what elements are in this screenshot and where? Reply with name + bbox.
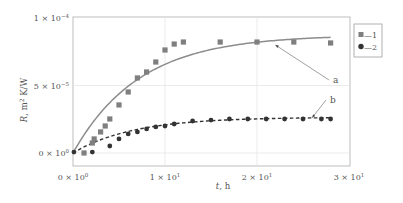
fit-curve-series-2: [73, 118, 331, 153]
y-tick-mantissa: 0 × 10: [38, 149, 65, 158]
x-axis-title: t, h: [216, 181, 231, 191]
x-tick-mantissa: 2 × 10: [242, 173, 269, 182]
data-point-series-1: [162, 47, 167, 52]
data-point-series-1: [181, 39, 186, 44]
data-point-series-1: [107, 116, 112, 121]
data-point-series-1: [328, 40, 333, 45]
data-point-series-2: [282, 117, 287, 122]
data-point-series-2: [190, 119, 195, 124]
data-point-series-2: [107, 144, 112, 149]
x-tick-mantissa: 3 × 10: [334, 173, 361, 182]
data-point-series-2: [209, 118, 214, 123]
data-point-series-2: [153, 125, 158, 130]
legend-marker-1: [359, 32, 364, 37]
data-point-series-1: [172, 41, 177, 46]
gridlines: [73, 17, 350, 166]
legend: —1 —2: [354, 24, 382, 57]
data-point-series-2: [328, 117, 333, 122]
y-tick-labels: 0 × 1005 × 10−51 × 10−4: [34, 13, 70, 158]
x-tick-mantissa: 1 × 10: [150, 173, 177, 182]
data-point-series-2: [126, 132, 131, 137]
annotation-label-a: a: [333, 75, 339, 85]
annotation-leader-b: [312, 100, 326, 118]
x-axis-unit: , h: [219, 181, 230, 191]
y-axis-title: R, m2 K/W: [18, 78, 30, 124]
data-point-series-2: [172, 122, 177, 127]
data-point-series-2: [90, 150, 95, 155]
annotation-label-b: b: [330, 95, 336, 105]
y-tick-mantissa: 1 × 10: [34, 14, 61, 23]
annotations: ab: [275, 45, 339, 118]
x-tick-exponent: 1: [361, 172, 365, 178]
annotation-arrowhead-a: [275, 45, 278, 48]
data-point-series-2: [301, 117, 306, 122]
data-point-series-1: [103, 123, 108, 128]
data-point-series-2: [117, 137, 122, 142]
data-point-series-2: [227, 117, 232, 122]
data-point-series-1: [126, 89, 131, 94]
data-point-series-1: [135, 75, 140, 80]
x-tick-label: 3 × 101: [334, 172, 365, 182]
legend-box: [354, 24, 382, 57]
data-point-series-1: [92, 136, 97, 141]
x-tick-labels: 0 × 1001 × 1012 × 1013 × 101: [58, 172, 365, 182]
plot-frame: [73, 17, 350, 166]
x-tick-exponent: 1: [177, 172, 181, 178]
data-point-series-1: [98, 129, 103, 134]
data-point-series-2: [163, 124, 168, 129]
data-point-series-1: [254, 39, 259, 44]
data-point-series-2: [245, 117, 250, 122]
y-tick-exponent: −4: [61, 13, 70, 19]
data-point-series-2: [144, 127, 149, 132]
y-tick-label: 1 × 10−4: [34, 13, 70, 23]
legend-label-2: —2: [364, 43, 377, 52]
data-point-series-1: [81, 150, 86, 155]
x-tick-label: 1 × 101: [150, 172, 181, 182]
legend-label-1: —1: [364, 31, 377, 40]
data-point-series-2: [319, 117, 324, 122]
data-point-series-1: [116, 102, 121, 107]
annotation-leader-a: [275, 45, 329, 80]
x-tick-label: 2 × 101: [242, 172, 273, 182]
y-tick-exponent: −5: [61, 81, 70, 87]
x-tick-mantissa: 0 × 10: [58, 173, 85, 182]
y-tick-mantissa: 5 × 10: [34, 82, 61, 91]
data-point-series-1: [218, 39, 223, 44]
y-axis-unit-b: K/W: [19, 78, 29, 99]
x-tick-exponent: 0: [85, 172, 89, 178]
legend-marker-2: [358, 44, 363, 49]
chart: 0 × 1001 × 1012 × 1013 × 101 0 × 1005 × …: [0, 0, 403, 203]
data-point-series-1: [144, 69, 149, 74]
y-axis-unit-a: , m: [19, 102, 29, 115]
x-tick-label: 0 × 100: [58, 172, 89, 182]
y-tick-label: 5 × 10−5: [34, 81, 70, 91]
data-point-series-2: [135, 130, 140, 135]
data-point-series-1: [291, 39, 296, 44]
data-point-series-2: [72, 150, 77, 155]
x-tick-exponent: 1: [269, 172, 273, 178]
y-tick-label: 0 × 100: [38, 148, 69, 158]
data-point-series-1: [153, 59, 158, 64]
fit-curves: [73, 37, 331, 153]
y-tick-exponent: 0: [66, 148, 70, 154]
data-point-series-2: [264, 117, 269, 122]
